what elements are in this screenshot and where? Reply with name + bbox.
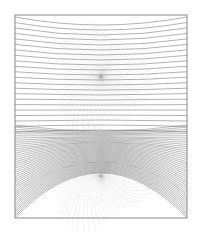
string-art-figure (0, 0, 202, 246)
background (0, 0, 202, 246)
